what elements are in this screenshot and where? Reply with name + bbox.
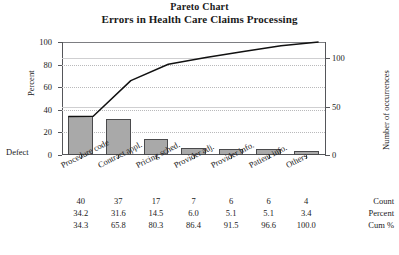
y-ticklabel-right: 0 (332, 151, 336, 159)
table-cell: 17 (136, 196, 176, 206)
y-ticklabel-left: 0 (0, 151, 52, 159)
data-table: Count4037177664Percent34.231.614.56.05.1… (0, 196, 399, 232)
chart-subtitle: Errors in Health Care Claims Processing (0, 13, 399, 26)
table-cell: 96.6 (249, 220, 289, 230)
y-ticklabel-right: 100 (332, 54, 345, 62)
y-ticklabel-left: 40 (0, 106, 52, 114)
table-cell: 6.0 (174, 208, 214, 218)
table-cell: 86.4 (174, 220, 214, 230)
table-cell: 80.3 (136, 220, 176, 230)
chart-title: Pareto Chart (0, 1, 399, 13)
y-tick-right (325, 58, 330, 59)
table-row: Count4037177664 (0, 196, 399, 208)
table-cell: 91.5 (211, 220, 251, 230)
table-row-label: Cum % (337, 220, 399, 230)
cumulative-polyline (68, 42, 318, 116)
pareto-chart-figure: Pareto Chart Errors in Health Care Claim… (0, 0, 399, 255)
chart-title-block: Pareto Chart Errors in Health Care Claim… (0, 1, 399, 26)
table-cell: 31.6 (98, 208, 138, 218)
table-cell: 34.2 (61, 208, 101, 218)
table-cell: 14.5 (136, 208, 176, 218)
table-cell: 7 (174, 196, 214, 206)
y-tick-right (325, 155, 330, 156)
table-cell: 3.4 (286, 208, 326, 218)
table-cell: 100.0 (286, 220, 326, 230)
table-cell: 34.3 (61, 220, 101, 230)
table-cell: 40 (61, 196, 101, 206)
table-cell: 65.8 (98, 220, 138, 230)
table-cell: 6 (249, 196, 289, 206)
y-ticklabel-left: 20 (0, 128, 52, 136)
table-row-label: Percent (337, 208, 399, 218)
table-cell: 4 (286, 196, 326, 206)
table-row: Cum %34.365.880.386.491.596.6100.0 (0, 220, 399, 232)
y-axis-right-title: Number of occurrences (381, 70, 391, 150)
table-cell: 6 (211, 196, 251, 206)
table-cell: 5.1 (211, 208, 251, 218)
y-tick-left (58, 155, 62, 156)
y-ticklabel-left: 80 (0, 61, 52, 69)
y-ticklabel-right: 50 (332, 103, 341, 111)
table-cell: 5.1 (249, 208, 289, 218)
table-cell: 37 (98, 196, 138, 206)
y-tick-right (325, 107, 330, 108)
y-ticklabel-left: 100 (0, 38, 52, 46)
table-row-label: Count (337, 196, 399, 206)
table-row: Percent34.231.614.56.05.15.13.4 (0, 208, 399, 220)
y-ticklabel-left: 60 (0, 83, 52, 91)
